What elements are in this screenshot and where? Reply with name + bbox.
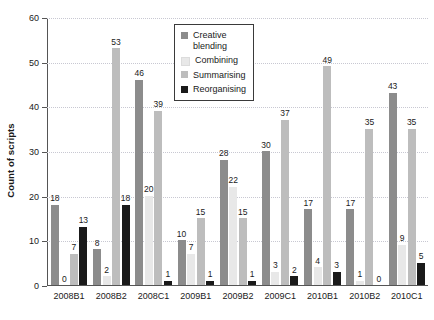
bar-value-label: 37 bbox=[280, 109, 289, 118]
bar-slot: 0 bbox=[60, 18, 68, 285]
bar[interactable] bbox=[239, 218, 247, 285]
bar-value-label: 1 bbox=[358, 270, 363, 279]
bar-group: 303372 bbox=[259, 18, 301, 285]
bar-slot: 18 bbox=[51, 18, 59, 285]
bar-slot: 2 bbox=[103, 18, 111, 285]
bar[interactable] bbox=[79, 227, 87, 285]
bar-slot: 1 bbox=[356, 18, 364, 285]
bar-group: 4620391 bbox=[132, 18, 174, 285]
legend-item-label: Creative blending bbox=[193, 30, 227, 51]
bar[interactable] bbox=[389, 93, 397, 285]
bar-slot: 46 bbox=[135, 18, 143, 285]
y-axis-tick bbox=[42, 241, 47, 242]
legend-swatch-icon bbox=[181, 57, 190, 66]
bar-value-label: 22 bbox=[229, 176, 238, 185]
bar[interactable] bbox=[154, 111, 162, 285]
bar[interactable] bbox=[408, 129, 416, 285]
bar[interactable] bbox=[304, 209, 312, 285]
bar-slot: 43 bbox=[389, 18, 397, 285]
bar[interactable] bbox=[70, 254, 78, 285]
bar-value-label: 0 bbox=[377, 275, 382, 284]
x-axis-tick-label: 2010B2 bbox=[344, 291, 386, 301]
bar[interactable] bbox=[164, 281, 172, 285]
bar[interactable] bbox=[271, 272, 279, 285]
bar-group: 825318 bbox=[90, 18, 132, 285]
y-axis-tick bbox=[42, 152, 47, 153]
bar-value-label: 49 bbox=[322, 56, 331, 65]
bar-slot: 8 bbox=[93, 18, 101, 285]
bar-slot: 1 bbox=[164, 18, 172, 285]
y-axis-tick-label: 40 bbox=[29, 102, 39, 112]
bar-slot: 4 bbox=[314, 18, 322, 285]
legend-item[interactable]: Combining bbox=[181, 55, 246, 66]
bar[interactable] bbox=[262, 151, 270, 285]
bar-value-label: 8 bbox=[95, 239, 100, 248]
bar-value-label: 4 bbox=[315, 257, 320, 266]
bar[interactable] bbox=[197, 218, 205, 285]
bar[interactable] bbox=[290, 276, 298, 285]
bar-value-label: 3 bbox=[334, 261, 339, 270]
bar[interactable] bbox=[178, 240, 186, 285]
bar[interactable] bbox=[356, 281, 364, 285]
bar-value-label: 35 bbox=[365, 118, 374, 127]
bar-value-label: 35 bbox=[407, 118, 416, 127]
legend-swatch-icon bbox=[181, 86, 188, 93]
bar-slot: 39 bbox=[154, 18, 162, 285]
bar-slot: 3 bbox=[333, 18, 341, 285]
bar[interactable] bbox=[281, 120, 289, 285]
bar[interactable] bbox=[229, 187, 237, 285]
bar-value-label: 53 bbox=[111, 38, 120, 47]
bar[interactable] bbox=[112, 48, 120, 285]
bar-slot: 9 bbox=[398, 18, 406, 285]
bar-value-label: 17 bbox=[303, 199, 312, 208]
bar[interactable] bbox=[398, 245, 406, 285]
bar[interactable] bbox=[220, 160, 228, 285]
legend-item-label: Reorganising bbox=[193, 84, 246, 95]
bar[interactable] bbox=[323, 66, 331, 285]
legend-item[interactable]: Creative blending bbox=[181, 30, 246, 51]
x-axis-tick-label: 2010B1 bbox=[301, 291, 343, 301]
bar[interactable] bbox=[135, 80, 143, 285]
bar-value-label: 20 bbox=[144, 185, 153, 194]
bar[interactable] bbox=[103, 276, 111, 285]
bar[interactable] bbox=[248, 281, 256, 285]
bar-slot: 35 bbox=[365, 18, 373, 285]
legend-item[interactable]: Reorganising bbox=[181, 84, 246, 95]
bar-value-label: 15 bbox=[238, 208, 247, 217]
bar[interactable] bbox=[365, 129, 373, 285]
x-axis-tick-label: 2010C1 bbox=[386, 291, 428, 301]
y-axis-tick bbox=[42, 18, 47, 19]
bar-value-label: 15 bbox=[196, 208, 205, 217]
bar[interactable] bbox=[187, 254, 195, 285]
bar-value-label: 7 bbox=[71, 243, 76, 252]
x-axis-tick-label: 2008B2 bbox=[90, 291, 132, 301]
bar[interactable] bbox=[346, 209, 354, 285]
legend-item-label: Combining bbox=[195, 55, 238, 66]
bar[interactable] bbox=[206, 281, 214, 285]
bar-value-label: 18 bbox=[121, 194, 130, 203]
x-axis-line bbox=[47, 285, 428, 286]
bar-value-label: 17 bbox=[346, 199, 355, 208]
bar-slot: 3 bbox=[271, 18, 279, 285]
bar[interactable] bbox=[314, 267, 322, 285]
chart-legend: Creative blendingCombiningSummarisingReo… bbox=[174, 24, 254, 101]
y-axis-tick bbox=[42, 63, 47, 64]
bar[interactable] bbox=[93, 249, 101, 285]
bar[interactable] bbox=[122, 205, 130, 285]
legend-item[interactable]: Summarising bbox=[181, 70, 246, 81]
x-axis-tick-label: 2008C1 bbox=[132, 291, 174, 301]
bar-value-label: 9 bbox=[400, 234, 405, 243]
bar-value-label: 1 bbox=[165, 270, 170, 279]
y-axis-title: Count of scripts bbox=[2, 0, 18, 320]
bar[interactable] bbox=[51, 205, 59, 285]
bar[interactable] bbox=[145, 196, 153, 285]
bar[interactable] bbox=[417, 263, 425, 285]
bar-chart: Count of scripts 0102030405060 180713825… bbox=[0, 0, 434, 320]
bar-value-label: 2 bbox=[292, 266, 297, 275]
x-axis-tick-label: 2009B2 bbox=[217, 291, 259, 301]
bar-slot: 20 bbox=[145, 18, 153, 285]
y-axis-tick-label: 60 bbox=[29, 13, 39, 23]
bar-value-label: 13 bbox=[79, 216, 88, 225]
bar-slot: 0 bbox=[375, 18, 383, 285]
bar[interactable] bbox=[333, 272, 341, 285]
